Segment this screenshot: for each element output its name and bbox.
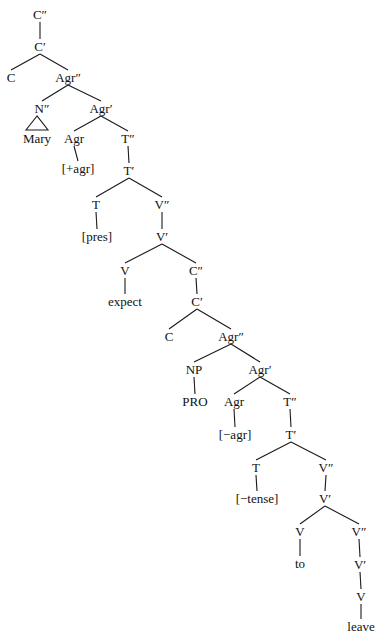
tree-node-n32: V [295,525,304,538]
tree-edge [128,146,129,163]
tree-node-n12: V″ [155,198,170,211]
tree-edge [40,54,68,70]
tree-node-n3: Agr″ [55,71,81,84]
tree-edge [360,572,361,589]
tree-edge [169,309,197,329]
tree-node-n31: V′ [319,492,331,505]
tree-edge [290,409,291,427]
tree-node-n1: C′ [34,40,46,53]
tree-node-n9: [+agr] [62,162,95,175]
syntax-tree-edges [0,0,380,631]
tree-edge [162,244,196,263]
tree-edge [234,377,260,394]
tree-node-n24: Agr [224,395,244,408]
tree-edge [129,178,162,197]
tree-node-n37: leave [347,620,374,631]
tree-node-n22: Agr′ [248,363,271,376]
tree-node-n13: [pres] [82,230,112,243]
tree-edge [359,539,360,557]
tree-edge [300,506,325,524]
tree-edge [197,309,231,329]
tree-edge [194,344,231,362]
tree-node-n11: T [92,198,100,211]
tree-node-n4: N″ [35,102,50,115]
tree-node-n35: V′ [354,558,366,571]
tree-node-n33: V″ [352,525,367,538]
tree-node-n29: V″ [319,461,334,474]
tree-edge [68,85,101,101]
tree-node-n17: expect [108,295,142,308]
tree-node-n23: PRO [182,395,207,408]
tree-node-n21: NP [186,363,203,376]
tree-edge [256,442,291,460]
tree-node-n15: V [120,264,129,277]
tree-node-n19: C [165,330,174,343]
tree-node-n28: T [252,461,260,474]
tree-node-n2: C [7,71,16,84]
tree-edge [125,244,162,263]
tree-edge [196,278,197,294]
tree-edge [96,212,97,229]
tree-node-n16: C″ [189,264,203,277]
tree-edge [101,116,128,131]
tree-node-n8: T″ [121,132,134,145]
tree-node-n25: T″ [283,395,296,408]
tree-node-n5: Agr′ [89,102,112,115]
tree-edge [11,54,40,70]
tree-edge [74,116,101,131]
tree-edge [260,377,290,394]
tree-node-n36: V [356,590,365,603]
tree-node-n7: Agr [64,132,84,145]
tree-edge [256,475,257,491]
tree-edge [325,475,326,491]
tree-edge [194,377,195,394]
tree-node-n34: to [295,557,305,570]
roof-triangle-icon [26,116,48,130]
tree-edge [74,146,78,161]
tree-edge [325,506,359,524]
tree-node-n14: V′ [156,230,168,243]
tree-edge [291,442,326,460]
tree-edge [231,344,260,362]
tree-node-n27: T′ [286,428,297,441]
tree-edge [42,85,68,101]
tree-node-n10: T′ [124,164,135,177]
tree-node-n30: [−tense] [236,492,279,505]
tree-node-n18: C′ [191,295,203,308]
tree-node-n26: [−agr] [219,428,252,441]
tree-node-n0: C″ [33,8,47,21]
tree-edge [96,178,129,197]
tree-node-n20: Agr″ [218,330,244,343]
tree-edge [234,409,235,427]
tree-node-n6: Mary [23,132,51,145]
